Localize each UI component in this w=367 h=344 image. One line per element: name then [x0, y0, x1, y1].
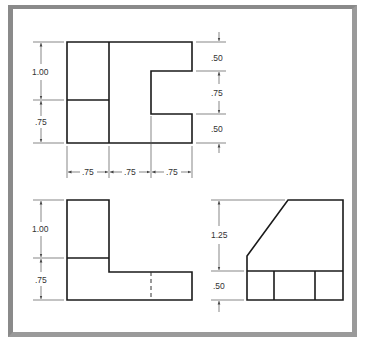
- top-dim-bottom-3: .75: [166, 167, 178, 177]
- top-dim-right-1: .50: [211, 53, 223, 63]
- top-dim-right-2: .75: [211, 88, 223, 98]
- side-dim-left-2: .50: [213, 281, 225, 291]
- front-dim-left-2: .75: [35, 275, 47, 285]
- side-view: 1.25 .50: [211, 200, 343, 312]
- top-view: 1.00 .75 .50 .75 .50 .75 .75 .75: [32, 32, 226, 178]
- top-dim-bottom-1: .75: [82, 167, 94, 177]
- front-dim-left-1: 1.00: [32, 224, 49, 234]
- top-dim-left-1: 1.00: [32, 67, 49, 77]
- top-dim-left-2: .75: [35, 117, 47, 127]
- top-dim-bottom-2: .75: [124, 167, 136, 177]
- front-view: 1.00 .75: [32, 200, 192, 300]
- orthographic-drawing: 1.00 .75 .50 .75 .50 .75 .75 .75 1.00 .7…: [0, 0, 367, 344]
- side-dim-left-1: 1.25: [211, 230, 228, 240]
- top-dim-right-3: .50: [211, 124, 223, 134]
